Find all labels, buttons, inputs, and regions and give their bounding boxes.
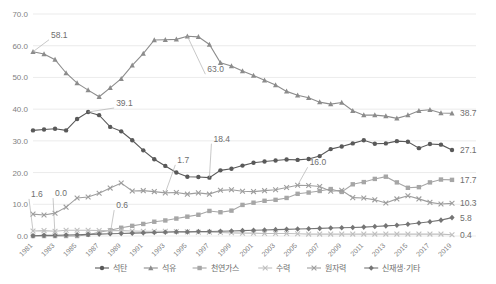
- series-point-coal: [42, 127, 46, 131]
- annotation-label-0.0: 0.0: [55, 188, 67, 198]
- y-axis-tick-7: 70.0: [12, 10, 28, 19]
- series-point-coal: [373, 142, 377, 146]
- series-point-coal: [119, 129, 123, 133]
- series-point-coal: [284, 157, 288, 161]
- series-point-gas: [395, 180, 399, 184]
- series-point-renewable: [306, 226, 311, 232]
- end-value-label-nuclear: 10.3: [460, 198, 477, 208]
- annotation-leader-63.0: [187, 36, 205, 74]
- x-axis-tick-19: 2019: [437, 242, 453, 258]
- series-point-gas: [273, 198, 277, 202]
- x-axis-tick-1: 1983: [40, 242, 56, 258]
- series-point-nuclear: [108, 186, 113, 191]
- series-point-gas: [284, 196, 288, 200]
- series-point-coal: [251, 161, 255, 165]
- series-point-coal: [218, 168, 222, 172]
- x-axis-tick-13: 2007: [304, 242, 320, 258]
- series-point-coal: [163, 164, 167, 168]
- series-point-gas: [428, 180, 432, 184]
- series-point-renewable: [449, 215, 454, 221]
- series-point-coal: [174, 170, 178, 174]
- x-axis-tick-16: 2013: [371, 242, 387, 258]
- y-axis-tick-4: 40.0: [12, 105, 28, 114]
- series-point-coal: [329, 147, 333, 151]
- x-axis-tick-0: 1981: [18, 242, 34, 258]
- annotation-label-1.7: 1.7: [177, 155, 189, 165]
- chart-canvas: 0.010.020.030.040.050.060.070.0198119831…: [0, 0, 496, 284]
- annotation-label-16.0: 16.0: [310, 157, 327, 167]
- legend-label-oil: 석유: [162, 263, 176, 273]
- series-point-renewable: [251, 227, 256, 233]
- series-point-gas: [185, 214, 189, 218]
- series-point-renewable: [328, 225, 333, 231]
- end-value-label-gas: 17.7: [460, 175, 477, 185]
- x-axis-tick-15: 2011: [349, 242, 365, 258]
- y-axis-tick-1: 10.0: [12, 200, 28, 209]
- series-point-coal: [152, 157, 156, 161]
- series-point-gas: [229, 208, 233, 212]
- series-point-coal: [295, 158, 299, 162]
- series-point-coal: [439, 142, 443, 146]
- x-axis-tick-14: 2009: [326, 242, 342, 258]
- annotation-label-39.1: 39.1: [116, 98, 133, 108]
- series-point-coal: [351, 141, 355, 145]
- end-value-label-oil: 38.7: [460, 108, 477, 118]
- series-point-renewable: [119, 231, 124, 237]
- series-point-renewable: [416, 220, 421, 226]
- series-point-coal: [340, 144, 344, 148]
- legend-label-hydro: 수력: [276, 263, 290, 273]
- series-point-renewable: [361, 224, 366, 230]
- series-line-coal: [33, 112, 452, 178]
- series-point-gas: [262, 199, 266, 203]
- series-point-renewable: [394, 222, 399, 228]
- x-axis-tick-6: 1993: [150, 242, 166, 258]
- series-point-coal: [240, 163, 244, 167]
- series-point-gas: [240, 203, 244, 207]
- series-point-renewable: [218, 228, 223, 234]
- series-point-renewable: [163, 229, 168, 235]
- series-point-renewable: [317, 226, 322, 232]
- x-axis-tick-17: 2015: [393, 242, 409, 258]
- end-value-label-coal: 27.1: [460, 145, 477, 155]
- series-point-coal: [97, 113, 101, 117]
- series-point-gas: [362, 180, 366, 184]
- series-point-coal: [428, 142, 432, 146]
- series-point-gas: [152, 220, 156, 224]
- series-point-gas: [439, 177, 443, 181]
- series-point-renewable: [405, 221, 410, 227]
- legend-label-nuclear: 원자력: [325, 263, 346, 273]
- series-point-coal: [196, 175, 200, 179]
- legend-label-gas: 천연가스: [211, 263, 239, 273]
- y-axis-tick-6: 60.0: [12, 42, 28, 51]
- series-point-coal: [108, 125, 112, 129]
- series-point-gas: [218, 210, 222, 214]
- series-point-coal: [395, 139, 399, 143]
- series-point-oil: [86, 87, 91, 92]
- x-axis-tick-3: 1987: [84, 242, 100, 258]
- series-point-coal: [130, 138, 134, 142]
- series-point-gas: [351, 182, 355, 186]
- series-point-gas: [163, 218, 167, 222]
- series-line-nuclear: [33, 183, 452, 215]
- series-point-gas: [450, 178, 454, 182]
- annotation-label-0.6: 0.6: [116, 200, 128, 210]
- series-point-coal: [406, 140, 410, 144]
- series-point-gas: [207, 209, 211, 213]
- y-axis-tick-2: 20.0: [12, 169, 28, 178]
- legend-label-coal: 석탄: [113, 263, 128, 273]
- x-axis-tick-4: 1989: [106, 242, 122, 258]
- x-axis-tick-8: 1997: [194, 242, 210, 258]
- y-axis-tick-0: 0.0: [17, 232, 29, 241]
- end-value-label-hydro: 0.4: [460, 230, 472, 240]
- legend-marker-gas: [197, 266, 201, 270]
- series-point-coal: [64, 128, 68, 132]
- series-point-coal: [262, 159, 266, 163]
- series-point-renewable: [372, 224, 377, 230]
- series-point-renewable: [295, 226, 300, 232]
- x-axis-tick-2: 1985: [62, 242, 78, 258]
- series-point-gas: [196, 213, 200, 217]
- x-axis-tick-11: 2003: [260, 242, 276, 258]
- series-point-renewable: [339, 225, 344, 231]
- annotation-label-18.4: 18.4: [213, 134, 230, 144]
- legend-marker-coal: [100, 266, 104, 270]
